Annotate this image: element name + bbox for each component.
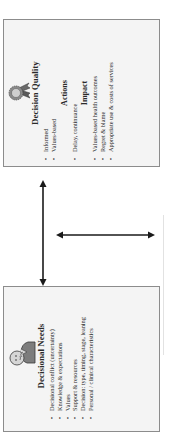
award-ribbon-icon — [8, 78, 30, 108]
impact-list: Values-based health outcomes Regret & bl… — [91, 26, 114, 160]
list-item: Values — [64, 293, 72, 419]
actions-list: Delay, continuance — [71, 26, 79, 160]
decision-quality-list: Informed Values-based — [42, 26, 58, 160]
list-item: Appropriate use & costs of services — [107, 26, 115, 160]
decision-quality-title: Decision Quality — [30, 61, 41, 125]
decision-quality-box: Decision Quality Informed Values-based A… — [3, 19, 160, 167]
thinking-person-icon — [8, 339, 36, 373]
actions-heading: Actions — [60, 26, 70, 160]
list-item: Decision: type, timing, stage, leaning — [79, 293, 87, 419]
needs-quality-double-arrow — [38, 180, 48, 286]
list-item: Delay, continuance — [71, 26, 79, 160]
cross-double-arrow — [56, 230, 155, 240]
list-item: Support & resources — [71, 293, 79, 419]
list-item: Decisional conflict (uncertainty) — [48, 293, 56, 419]
list-item: Informed — [42, 26, 50, 160]
impact-heading: Impact — [80, 26, 90, 160]
list-item: Personal / clinical characteristics — [87, 293, 95, 419]
list-item: Knowledge & expectations — [56, 293, 64, 419]
decisional-needs-box: Decisional Needs Decisional conflict (un… — [3, 286, 160, 432]
decisional-needs-title: Decisional Needs — [36, 324, 47, 389]
decisional-needs-list: Decisional conflict (uncertainty) Knowle… — [48, 293, 95, 419]
divider-line — [163, 215, 164, 355]
list-item: Values-based — [50, 26, 58, 160]
list-item: Regret & blame — [99, 26, 107, 160]
list-item: Values-based health outcomes — [91, 26, 99, 160]
